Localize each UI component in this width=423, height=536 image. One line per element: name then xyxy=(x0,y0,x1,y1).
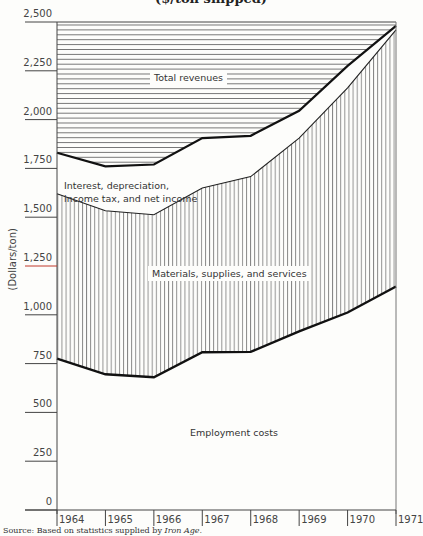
label-interest-line2: income tax, and net income xyxy=(64,192,197,205)
x-tick-label: 1971 xyxy=(398,514,423,525)
y-tick-label: 1,500 xyxy=(4,203,52,214)
y-tick-label: 1,750 xyxy=(4,154,52,165)
y-tick-label: 0 xyxy=(4,496,52,507)
x-tick-label: 1970 xyxy=(350,514,375,525)
x-tick-label: 1968 xyxy=(253,514,278,525)
y-tick-label: 2,250 xyxy=(4,57,52,68)
source-note: Source: Based on statistics supplied by … xyxy=(3,526,202,535)
y-tick-label: 1,000 xyxy=(4,301,52,312)
x-tick-label: 1967 xyxy=(204,514,229,525)
x-tick-label: 1965 xyxy=(107,514,132,525)
label-employment: Employment costs xyxy=(186,425,282,440)
label-materials: Materials, supplies, and services xyxy=(148,266,311,281)
x-tick-label: 1966 xyxy=(156,514,181,525)
source-prefix: Source: Based on statistics supplied by xyxy=(3,526,164,535)
y-tick-label: 750 xyxy=(4,350,52,361)
source-italic: Iron Age xyxy=(164,526,199,535)
label-interest-line1: Interest, depreciation, xyxy=(64,179,197,192)
y-tick-label: 250 xyxy=(4,447,52,458)
x-tick-label: 1964 xyxy=(59,514,84,525)
label-interest: Interest, depreciation, income tax, and … xyxy=(60,178,201,206)
x-tick-label: 1969 xyxy=(301,514,326,525)
y-tick-label: 500 xyxy=(4,398,52,409)
y-axis-label: (Dollars/ton) xyxy=(7,231,18,291)
label-total-revenues: Total revenues xyxy=(150,70,227,85)
y-tick-label: 2,500 xyxy=(4,8,52,19)
source-suffix: . xyxy=(200,526,203,535)
y-tick-label: 2,000 xyxy=(4,106,52,117)
